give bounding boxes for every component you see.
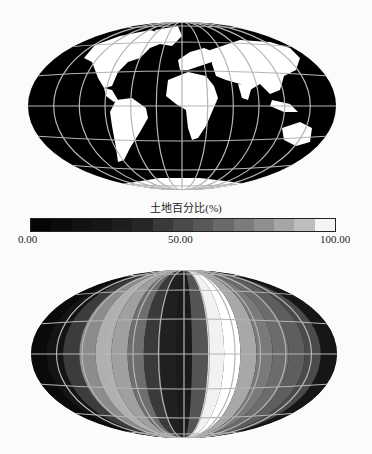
colorbar-segment <box>132 219 152 231</box>
colorbar-segment <box>173 219 193 231</box>
colorbar-title: 土地百分比(%) <box>0 199 372 215</box>
colorbar-segment <box>31 219 51 231</box>
colorbar-segment <box>153 219 173 231</box>
colorbar <box>30 218 336 232</box>
colorbar-segment <box>294 219 314 231</box>
land-mask-map <box>0 0 372 200</box>
land-percentage-by-longitude-map <box>0 260 372 454</box>
colorbar-max-label: 100.00 <box>320 233 350 245</box>
colorbar-segment <box>193 219 213 231</box>
colorbar-segment <box>234 219 254 231</box>
colorbar-segment <box>92 219 112 231</box>
colorbar-min-label: 0.00 <box>18 233 37 245</box>
colorbar-mid-label: 50.00 <box>168 233 193 245</box>
colorbar-segment <box>315 219 335 231</box>
colorbar-segment <box>254 219 274 231</box>
colorbar-segment <box>72 219 92 231</box>
colorbar-segment <box>213 219 233 231</box>
colorbar-segment <box>274 219 294 231</box>
colorbar-segment <box>112 219 132 231</box>
colorbar-segment <box>51 219 71 231</box>
